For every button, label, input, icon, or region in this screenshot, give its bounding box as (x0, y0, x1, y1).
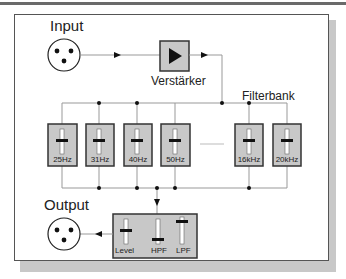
slider-knob (131, 139, 143, 142)
output-label: Output (44, 196, 89, 213)
lpf-slider-knob (176, 220, 188, 223)
bottom-bus (62, 166, 287, 214)
arrow-icon (114, 52, 121, 58)
filter-label: 25Hz (48, 155, 77, 164)
amplifier-label: Verstärker (151, 74, 206, 88)
filterbank-label: Filterbank (242, 89, 295, 103)
arrow-icon (201, 52, 208, 58)
lpf-label: LPF (176, 246, 191, 255)
amplifier-block (160, 41, 189, 71)
input-label: Input (50, 17, 83, 34)
level-label: Level (115, 246, 134, 255)
slider-knob (56, 139, 68, 142)
arrow-icon (154, 199, 160, 206)
signal-flow-diagram (0, 0, 346, 279)
arrow-icon (95, 231, 102, 237)
filter-label: 40Hz (124, 155, 152, 164)
slider-knob (93, 139, 105, 142)
hpf-slider-knob (152, 238, 164, 241)
filter-label: 20kHz (273, 155, 301, 164)
slider-knob (281, 139, 293, 142)
filter-label: 50Hz (161, 155, 190, 164)
input-connector-icon (48, 39, 80, 71)
filter-label: 31Hz (86, 155, 114, 164)
hpf-label: HPF (151, 246, 167, 255)
slider-knob (169, 139, 181, 142)
level-slider-knob (120, 229, 132, 232)
filter-label: 16kHz (235, 155, 263, 164)
top-bus (62, 103, 287, 124)
slider-knob (243, 139, 255, 142)
output-connector-icon (48, 218, 80, 250)
